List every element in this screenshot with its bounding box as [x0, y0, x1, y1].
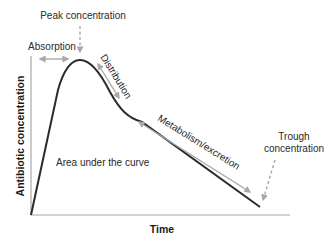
trough-label-line2: concentration	[264, 143, 324, 154]
trough-label-line1: Trough	[278, 131, 309, 142]
peak-concentration-label: Peak concentration	[40, 10, 126, 21]
absorption-label: Absorption	[28, 41, 76, 52]
pharmacokinetic-diagram: Peak concentration Absorption Distributi…	[0, 0, 331, 241]
auc-label: Area under the curve	[56, 157, 150, 168]
trough-arrow	[263, 160, 275, 200]
y-axis-label: Antibiotic concentration	[14, 76, 26, 197]
x-axis-label: Time	[150, 223, 174, 235]
concentration-curve	[31, 60, 260, 215]
